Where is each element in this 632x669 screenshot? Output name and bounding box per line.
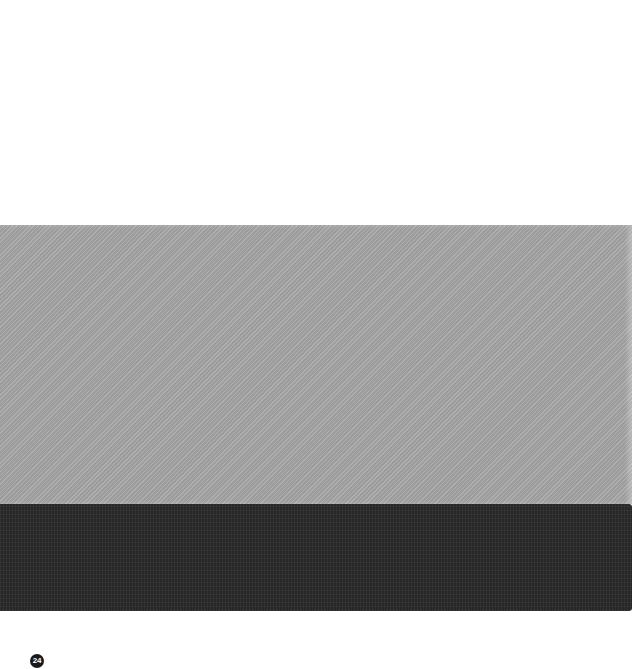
page-number-badge: 24	[30, 654, 44, 668]
charcoal-fabric-swatch	[0, 504, 632, 611]
light-gray-fabric-swatch	[0, 225, 632, 504]
